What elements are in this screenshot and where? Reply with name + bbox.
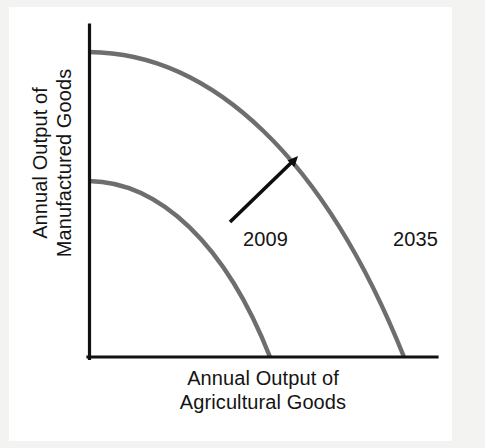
curve-label-2009: 2009 [243, 228, 288, 250]
x-axis-title: Annual Output of Agricultural Goods [89, 366, 437, 414]
economic-growth-arrow-shaft [230, 162, 293, 223]
y-axis-title: Annual Output of Manufactured Goods [28, 13, 76, 313]
curve-label-2035: 2035 [393, 228, 438, 250]
figure-root: 2009 2035 Annual Output of Agricultural … [0, 0, 485, 448]
y-axis-title-wrap: Annual Output of Manufactured Goods [28, 13, 80, 313]
